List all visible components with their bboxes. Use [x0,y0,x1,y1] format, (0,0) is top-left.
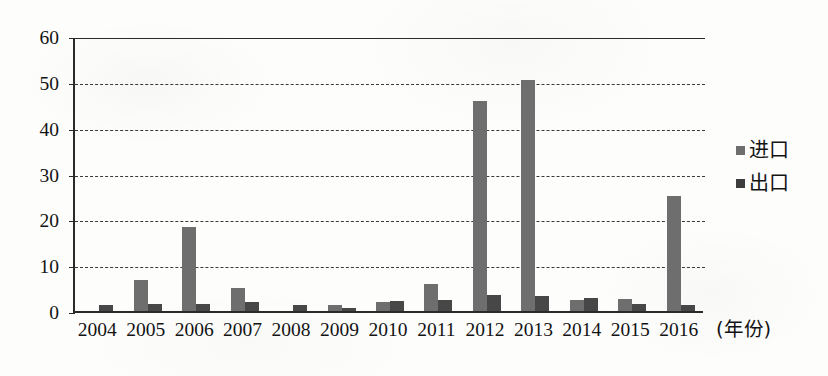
y-axis-tick-0 [69,313,75,314]
bar-import-2011[interactable] [424,284,438,312]
y-axis-label-10: 10 [15,257,59,277]
y-axis-label-30: 30 [15,166,59,186]
bar-import-2015[interactable] [618,299,632,311]
bar-group-2008 [269,36,317,311]
plot-area [73,38,703,313]
legend-item-import[interactable]: 进口 [736,140,789,160]
bar-chart: 0102030405060 20042005200620072008200920… [0,0,828,376]
bar-import-2006[interactable] [182,227,196,311]
bar-group-2016 [657,36,705,311]
bar-export-2008[interactable] [293,305,307,311]
x-axis-label-2016: 2016 [649,320,709,340]
bar-group-2011 [414,36,462,311]
bar-export-2014[interactable] [584,298,598,311]
x-axis-unit-label: (年份) [716,320,771,340]
bar-export-2005[interactable] [148,304,162,311]
bar-export-2016[interactable] [681,305,695,311]
bar-import-2016[interactable] [667,196,681,311]
y-axis-label-40: 40 [15,120,59,140]
legend-swatch-import-icon [736,146,745,155]
bar-export-2006[interactable] [196,304,210,311]
bar-export-2010[interactable] [390,301,404,311]
bar-export-2004[interactable] [99,305,113,311]
bar-group-2012 [463,36,511,311]
bar-group-2013 [511,36,559,311]
bar-import-2005[interactable] [134,280,148,311]
legend-label-export: 出口 [749,173,789,193]
y-axis-label-0: 0 [15,303,59,323]
bar-group-2004 [75,36,123,311]
bar-export-2015[interactable] [632,304,646,311]
legend-label-import: 进口 [749,140,789,160]
bar-group-2007 [220,36,268,311]
bar-export-2012[interactable] [487,295,501,311]
bar-group-2015 [608,36,656,311]
bar-group-2014 [560,36,608,311]
bar-export-2007[interactable] [245,302,259,311]
bar-import-2014[interactable] [570,300,584,311]
bar-import-2010[interactable] [376,302,390,311]
bar-import-2009[interactable] [328,305,342,311]
bar-export-2011[interactable] [438,300,452,311]
bar-group-2010 [366,36,414,311]
legend-swatch-export-icon [736,179,745,188]
bar-export-2013[interactable] [535,296,549,311]
y-axis-label-50: 50 [15,74,59,94]
bar-import-2007[interactable] [231,288,245,311]
bar-import-2012[interactable] [473,101,487,311]
bar-group-2005 [123,36,171,311]
y-axis-label-60: 60 [15,28,59,48]
bar-group-2006 [172,36,220,311]
bar-export-2009[interactable] [342,308,356,311]
y-axis-label-20: 20 [15,211,59,231]
chart-legend: 进口 出口 [736,140,789,193]
legend-item-export[interactable]: 出口 [736,173,789,193]
bar-series-container [75,36,705,311]
bar-import-2013[interactable] [521,80,535,311]
bar-group-2009 [317,36,365,311]
